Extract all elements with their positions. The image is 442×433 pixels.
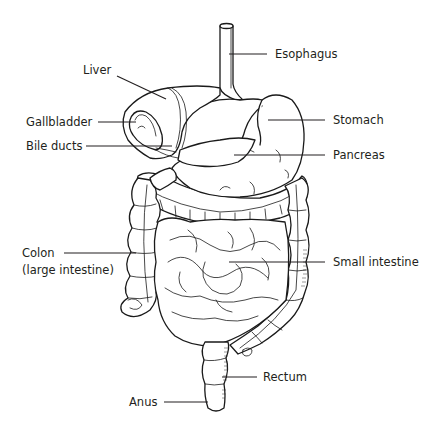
label-bile-ducts: Bile ducts (26, 139, 82, 153)
label-colon-subtitle: (large intestine) (22, 263, 114, 277)
esophagus (220, 24, 243, 101)
label-liver: Liver (83, 63, 111, 77)
label-rectum: Rectum (263, 370, 307, 384)
label-colon: Colon (22, 246, 55, 260)
label-small-intestine: Small intestine (333, 255, 419, 269)
label-esophagus: Esophagus (275, 47, 338, 61)
label-gallbladder: Gallbladder (26, 115, 93, 129)
liver-leader (117, 76, 166, 99)
label-anus: Anus (129, 395, 157, 409)
label-pancreas: Pancreas (333, 148, 385, 162)
anatomy-illustration: Esophagus Liver Stomach Gallbladder Bile… (0, 0, 442, 433)
digestive-system-diagram: Esophagus Liver Stomach Gallbladder Bile… (0, 0, 442, 433)
label-stomach: Stomach (333, 113, 384, 127)
